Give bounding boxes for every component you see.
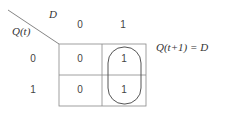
row-header-1: 1	[26, 84, 40, 95]
row-variable-label: Q(t)	[12, 25, 30, 37]
cell-r1-c0: 0	[73, 84, 87, 95]
cell-r0-c0: 0	[73, 53, 87, 64]
column-header-0: 0	[73, 19, 87, 30]
cell-r0-c1: 1	[117, 53, 131, 64]
column-variable-label: D	[49, 8, 57, 20]
equation-label: Q(t+1) = D	[156, 41, 208, 53]
cell-r1-c1: 1	[117, 84, 131, 95]
row-header-0: 0	[26, 53, 40, 64]
column-header-1: 1	[116, 19, 130, 30]
